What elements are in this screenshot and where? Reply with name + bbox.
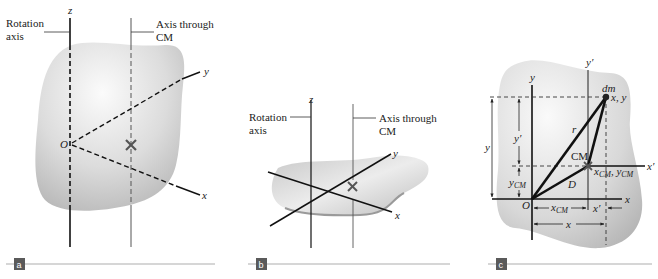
D-label: D: [567, 178, 576, 190]
panel-b: Rotation axis Axis through CM z y x b: [248, 93, 450, 270]
dim-x-prime-label: x′: [592, 202, 601, 214]
panel-c: y y′ dm x, y r CM xCM, yCM x′ D x O y y′…: [484, 56, 655, 270]
y-label: y: [392, 147, 398, 159]
x-label: x: [624, 193, 630, 205]
x-axis-tail: [176, 186, 200, 195]
cm-axis-label-2: CM: [156, 31, 173, 43]
cm-axis-label-1: Axis through: [379, 112, 437, 124]
rotation-axis-label-1: Rotation: [249, 111, 287, 123]
point-xy-label: x, y: [610, 91, 626, 103]
y-prime-label: y′: [585, 56, 594, 68]
rotation-axis-label-2: axis: [249, 124, 267, 136]
rotation-axis-label-2: axis: [6, 30, 24, 42]
panel-a: Rotation axis Axis through CM z y x O a: [6, 4, 215, 270]
y-axis-tail: [182, 72, 200, 79]
dm-point: [603, 94, 609, 100]
panel-tag-b: b: [259, 260, 264, 270]
cm-axis-label-1: Axis through: [156, 18, 214, 30]
dim-y-prime-label: y′: [513, 132, 522, 144]
z-label: z: [67, 4, 73, 16]
panel-tag-a: a: [17, 260, 22, 270]
r-label: r: [572, 123, 577, 135]
dim-y-label: y: [484, 141, 490, 153]
cm-axis-label-2: CM: [379, 125, 396, 137]
dim-x-label: x: [565, 218, 571, 230]
z-label: z: [308, 93, 314, 105]
origin-label: O: [522, 199, 530, 211]
parallel-axis-figure: Rotation axis Axis through CM z y x O a …: [0, 0, 658, 279]
x-label: x: [201, 189, 207, 201]
x-prime-label: x′: [646, 160, 655, 172]
origin-label: O: [60, 138, 68, 150]
y-label: y: [529, 71, 535, 83]
x-label: x: [394, 209, 400, 221]
cm-label: CM: [571, 150, 588, 162]
y-label: y: [203, 65, 209, 77]
rigid-body-shape: [35, 42, 184, 210]
rotation-axis-label-1: Rotation: [6, 17, 44, 29]
panel-tag-c: c: [499, 260, 504, 270]
